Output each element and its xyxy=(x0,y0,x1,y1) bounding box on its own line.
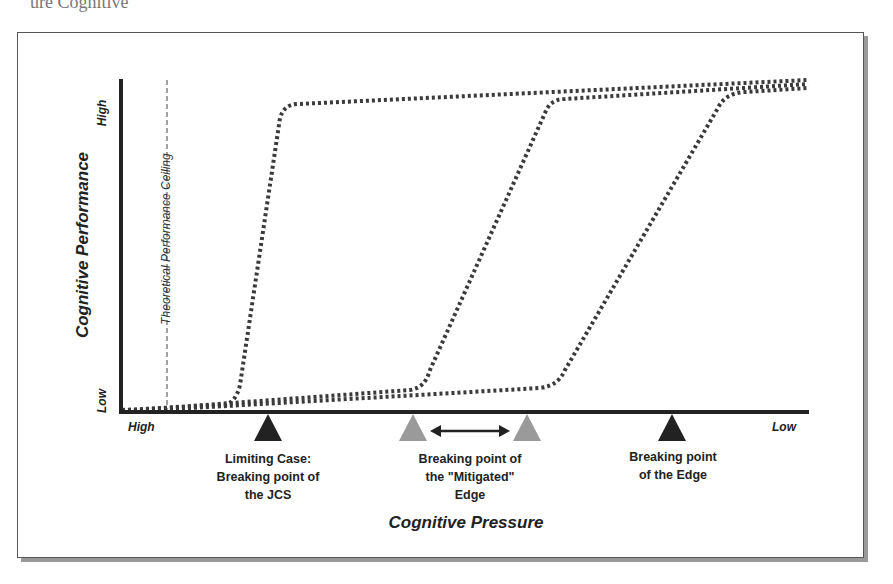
marker-edge-label-line: Breaking point xyxy=(608,448,738,466)
marker-edge-label-line: of the Edge xyxy=(608,466,738,484)
marker-jcs-triangle xyxy=(254,414,282,441)
y-axis-high-label: High xyxy=(93,93,111,133)
marker-mitigated-label-line: Breaking point of xyxy=(400,450,540,468)
curve-jcs xyxy=(122,80,808,410)
marker-jcs-label: Limiting Case: Breaking point of the JCS xyxy=(198,450,338,504)
marker-mitigated-left-triangle xyxy=(399,414,427,441)
double-arrow-icon xyxy=(430,425,510,437)
x-axis-high-label: High xyxy=(128,418,178,436)
curve-edge xyxy=(122,88,808,412)
y-axis-title: Cognitive Performance xyxy=(74,140,92,350)
marker-jcs-label-line: the JCS xyxy=(198,486,338,504)
marker-mitigated-label-line: the "Mitigated" xyxy=(400,468,540,486)
ceiling-label: Theoretical Performance Ceiling xyxy=(159,129,173,349)
marker-mitigated-label: Breaking point of the "Mitigated" Edge xyxy=(400,450,540,504)
marker-edge-label: Breaking point of the Edge xyxy=(608,448,738,484)
marker-jcs-label-line: Limiting Case: xyxy=(198,450,338,468)
y-axis-low-label: Low xyxy=(93,381,111,421)
x-axis-title: Cognitive Pressure xyxy=(346,514,586,532)
marker-edge-triangle xyxy=(658,414,686,441)
marker-mitigated-right-triangle xyxy=(513,414,541,441)
x-axis-low-label: Low xyxy=(772,418,812,436)
marker-jcs-label-line: Breaking point of xyxy=(198,468,338,486)
marker-mitigated-label-line: Edge xyxy=(400,486,540,504)
